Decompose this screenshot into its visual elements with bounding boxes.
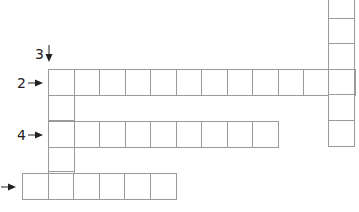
crossword-cell[interactable]: [227, 69, 254, 96]
crossword-cell[interactable]: [48, 121, 75, 148]
crossword-cell[interactable]: [99, 173, 126, 200]
crossword-cell[interactable]: [303, 69, 330, 96]
crossword-cell[interactable]: [150, 173, 177, 200]
clue-number-3: 3: [35, 47, 44, 61]
crossword-cell[interactable]: [150, 121, 177, 148]
clue-number-4: 4: [17, 128, 26, 142]
crossword-cell[interactable]: [48, 173, 75, 200]
crossword-cell[interactable]: [201, 69, 228, 96]
crossword-cell[interactable]: [328, 120, 355, 147]
crossword-cell[interactable]: [124, 173, 151, 200]
crossword-cell[interactable]: [73, 173, 100, 200]
crossword-cell[interactable]: [328, 94, 355, 121]
crossword-cell[interactable]: [227, 121, 254, 148]
crossword-cell[interactable]: [22, 173, 49, 200]
crossword-cell[interactable]: [150, 69, 177, 96]
crossword-cell[interactable]: [48, 69, 75, 96]
crossword-cell[interactable]: [328, 18, 355, 45]
crossword-cell[interactable]: [328, 43, 355, 70]
arrow-down-icon: [44, 45, 54, 63]
crossword-cell[interactable]: [125, 121, 152, 148]
crossword-cell[interactable]: [48, 146, 75, 173]
crossword-cell[interactable]: [99, 121, 126, 148]
crossword-cell[interactable]: [176, 69, 203, 96]
arrow-right-icon: [1, 182, 17, 192]
crossword-cell[interactable]: [99, 69, 126, 96]
crossword-cell[interactable]: [74, 121, 101, 148]
crossword-cell[interactable]: [328, 0, 355, 19]
crossword-cell[interactable]: [201, 121, 228, 148]
crossword-cell[interactable]: [48, 95, 75, 122]
crossword-cell[interactable]: [252, 69, 279, 96]
crossword-cell[interactable]: [74, 69, 101, 96]
crossword-cell[interactable]: [176, 121, 203, 148]
crossword-cell[interactable]: [278, 69, 305, 96]
arrow-right-icon: [28, 130, 44, 140]
arrow-right-icon: [28, 78, 44, 88]
crossword-cell[interactable]: [252, 121, 279, 148]
crossword-cell[interactable]: [125, 69, 152, 96]
crossword-cell[interactable]: [328, 69, 355, 96]
clue-number-2: 2: [17, 76, 26, 90]
crossword-grid: [0, 0, 359, 212]
